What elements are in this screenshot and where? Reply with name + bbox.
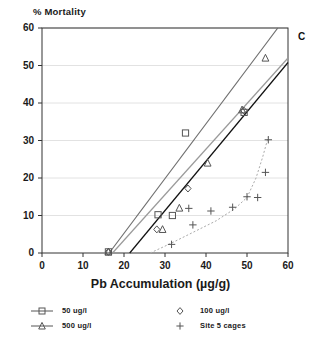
data-point-marker xyxy=(182,130,188,136)
data-point-marker xyxy=(254,194,261,201)
y-tick-label: 20 xyxy=(8,172,34,183)
legend-item: 50 ug/l xyxy=(30,305,160,317)
legend-label: Site 5 cages xyxy=(200,321,246,330)
y-tick-label: 10 xyxy=(8,210,34,221)
data-point-marker xyxy=(189,221,196,228)
legend-item: 500 ug/l xyxy=(30,320,160,332)
data-point-marker xyxy=(265,136,272,143)
y-tick-label: 40 xyxy=(8,97,34,108)
legend-marker-triangle xyxy=(30,320,54,332)
x-axis-title: Pb Accumulation (µg/g) xyxy=(0,277,321,291)
x-tick-label: 10 xyxy=(68,260,98,271)
data-point-marker xyxy=(168,241,175,248)
x-tick-label: 40 xyxy=(191,260,221,271)
legend-label: 50 ug/l xyxy=(62,306,87,315)
y-tick-label: 30 xyxy=(8,135,34,146)
data-point-marker xyxy=(207,207,214,214)
data-point-marker xyxy=(262,169,269,176)
x-tick-label: 30 xyxy=(150,260,180,271)
gridlines xyxy=(42,28,288,216)
plot-canvas xyxy=(0,0,321,300)
x-tick-label: 50 xyxy=(232,260,262,271)
legend-marker-plus xyxy=(168,320,192,332)
x-tick-label: 0 xyxy=(27,260,57,271)
y-tick-label: 60 xyxy=(8,22,34,33)
legend-item: 100 ug/l xyxy=(168,305,298,317)
data-point-marker xyxy=(229,204,236,211)
y-tick-label: 50 xyxy=(8,60,34,71)
y-tick-label: 0 xyxy=(8,247,34,258)
legend-marker-diamond xyxy=(168,305,192,317)
data-point-marker xyxy=(262,54,269,61)
data-point-marker xyxy=(185,205,192,212)
x-tick-label: 60 xyxy=(273,260,303,271)
x-tick-label: 20 xyxy=(109,260,139,271)
legend-label: 500 ug/l xyxy=(62,321,92,330)
data-point-marker xyxy=(176,204,183,211)
legend-marker-square xyxy=(30,305,54,317)
axis-ticks xyxy=(38,28,288,257)
legend-item: Site 5 cages xyxy=(168,320,298,332)
chart-figure: % Mortality C 0102030405060 010203040506… xyxy=(0,0,321,345)
legend-label: 100 ug/l xyxy=(200,306,230,315)
